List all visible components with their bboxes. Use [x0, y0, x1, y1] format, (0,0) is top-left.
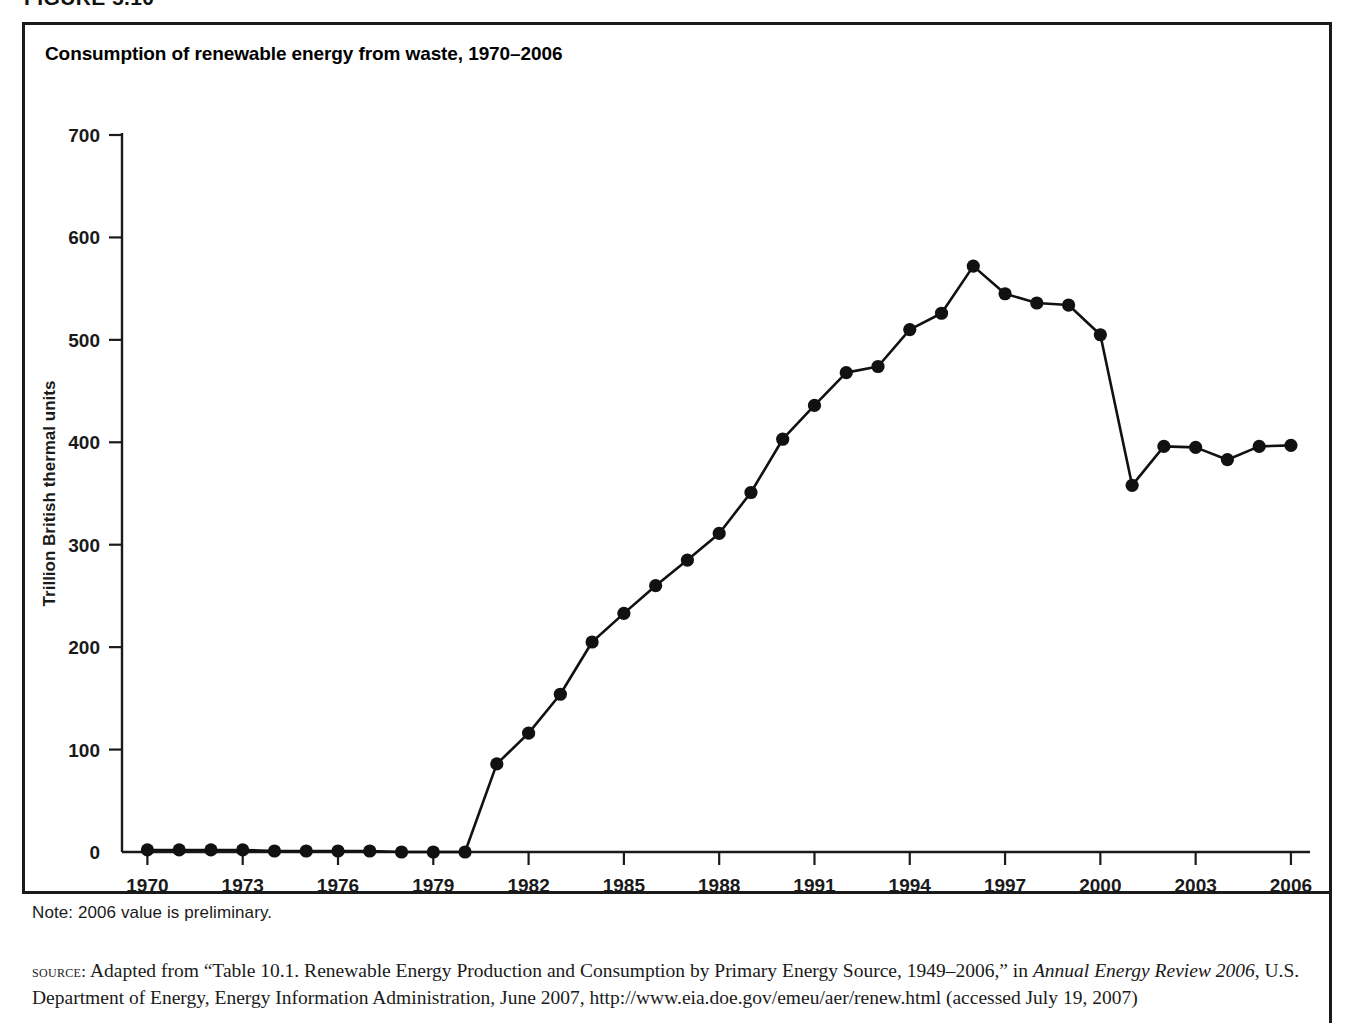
source-text-part1: Adapted from “Table 10.1. Renewable Ener…	[86, 960, 1033, 981]
x-axis-tick-label: 1988	[698, 875, 740, 896]
data-point-marker	[903, 323, 916, 336]
chart-container: Consumption of renewable energy from was…	[22, 22, 1332, 894]
x-axis-tick-label: 2000	[1079, 875, 1121, 896]
data-series	[141, 260, 1298, 859]
y-axis: 0100200300400500600700	[68, 125, 122, 863]
data-point-marker	[490, 757, 503, 770]
data-point-marker	[1157, 440, 1170, 453]
data-point-marker	[967, 260, 980, 273]
y-axis-tick-label: 700	[68, 125, 100, 146]
x-axis-tick-label: 1979	[412, 875, 454, 896]
data-point-marker	[1221, 453, 1234, 466]
line-chart-svg: 0100200300400500600700 19701973197619791…	[25, 25, 1335, 897]
chart-source: source: Adapted from “Table 10.1. Renewa…	[32, 958, 1322, 1011]
data-point-marker	[776, 433, 789, 446]
data-point-marker	[649, 579, 662, 592]
data-point-marker	[586, 635, 599, 648]
x-axis-tick-label: 1982	[507, 875, 549, 896]
data-point-marker	[141, 843, 154, 856]
source-kicker: source:	[32, 962, 86, 981]
data-point-marker	[871, 360, 884, 373]
y-axis-tick-label: 400	[68, 432, 100, 453]
x-axis-tick-label: 1991	[793, 875, 836, 896]
chart-note: Note: 2006 value is preliminary.	[32, 903, 272, 923]
data-point-marker	[1094, 328, 1107, 341]
x-axis-tick-label: 1973	[222, 875, 264, 896]
x-axis-tick-label: 1976	[317, 875, 359, 896]
data-point-marker	[998, 287, 1011, 300]
data-point-marker	[331, 844, 344, 857]
data-point-marker	[268, 844, 281, 857]
y-axis-tick-label: 600	[68, 227, 100, 248]
x-axis-tick-label: 1997	[984, 875, 1026, 896]
data-point-marker	[395, 845, 408, 858]
data-point-marker	[236, 843, 249, 856]
data-point-marker	[522, 727, 535, 740]
data-point-marker	[1062, 298, 1075, 311]
data-point-marker	[1126, 479, 1139, 492]
x-axis-tick-label: 2006	[1270, 875, 1312, 896]
plot-area: 0100200300400500600700 19701973197619791…	[25, 25, 1335, 897]
y-axis-tick-label: 0	[89, 842, 100, 863]
y-axis-tick-label: 500	[68, 330, 100, 351]
x-axis-tick-label: 1970	[126, 875, 168, 896]
data-point-marker	[458, 845, 471, 858]
figure-root: FIGURE 5.10 Consumption of renewable ene…	[0, 0, 1354, 1023]
y-axis-tick-label: 300	[68, 535, 100, 556]
data-point-marker	[713, 527, 726, 540]
data-point-marker	[554, 688, 567, 701]
y-axis-tick-label: 200	[68, 637, 100, 658]
y-axis-title-text: Trillion British thermal units	[40, 381, 59, 607]
data-point-marker	[681, 553, 694, 566]
data-point-marker	[840, 366, 853, 379]
data-point-marker	[204, 843, 217, 856]
data-point-marker	[744, 486, 757, 499]
data-point-marker	[427, 845, 440, 858]
data-point-marker	[363, 844, 376, 857]
data-point-marker	[1189, 441, 1202, 454]
y-axis-title: Trillion British thermal units	[40, 381, 59, 607]
x-axis-tick-label: 1985	[603, 875, 646, 896]
x-axis-tick-label: 1994	[889, 875, 932, 896]
data-point-marker	[300, 844, 313, 857]
figure-number-label: FIGURE 5.10	[24, 0, 154, 10]
source-publication-title: Annual Energy Review 2006	[1033, 960, 1255, 981]
data-point-marker	[617, 607, 630, 620]
data-point-marker	[935, 307, 948, 320]
data-point-marker	[1253, 440, 1266, 453]
x-axis: 1970197319761979198219851988199119941997…	[122, 852, 1312, 896]
series-line	[147, 266, 1291, 852]
data-point-marker	[1284, 439, 1297, 452]
y-axis-tick-label: 100	[68, 740, 100, 761]
data-point-marker	[1030, 296, 1043, 309]
data-point-marker	[173, 843, 186, 856]
x-axis-tick-label: 2003	[1175, 875, 1217, 896]
data-point-marker	[808, 399, 821, 412]
